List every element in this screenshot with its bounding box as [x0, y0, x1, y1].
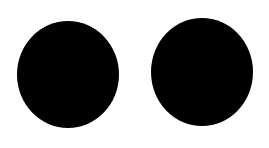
left-circle — [17, 21, 119, 128]
right-circle — [151, 18, 253, 126]
